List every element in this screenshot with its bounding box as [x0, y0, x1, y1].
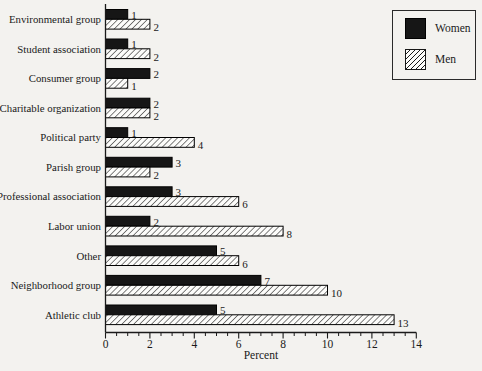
category-label-political-party: Political party — [40, 131, 101, 143]
legend-item-women: Women — [405, 18, 475, 39]
bar-men-consumer-group — [106, 78, 128, 88]
bar-women-parish-group — [106, 157, 173, 167]
value-label-men-charitable-organization: 2 — [153, 110, 159, 122]
value-label-men-parish-group: 2 — [153, 169, 159, 181]
category-label-athletic-club: Athletic club — [45, 309, 101, 321]
bar-men-athletic-club — [106, 315, 395, 325]
x-axis-tick-label: 2 — [147, 338, 153, 350]
value-label-men-athletic-club: 13 — [398, 317, 410, 329]
x-axis-title: Percent — [244, 349, 279, 361]
category-label-parish-group: Parish group — [46, 161, 101, 173]
bar-men-labor-union — [106, 226, 284, 236]
bar-women-athletic-club — [106, 305, 217, 315]
x-axis-tick-label: 8 — [280, 338, 286, 350]
category-label-professional-association: Professional association — [0, 190, 102, 202]
value-label-men-other: 6 — [242, 258, 248, 270]
x-axis-tick-label: 6 — [236, 338, 242, 350]
value-label-men-labor-union: 8 — [287, 228, 293, 240]
bar-women-environmental-group — [106, 10, 128, 20]
value-label-men-consumer-group: 1 — [131, 80, 137, 92]
bar-men-charitable-organization — [106, 108, 150, 118]
category-label-consumer-group: Consumer group — [29, 72, 101, 84]
x-axis-tick-label: 4 — [191, 338, 197, 350]
bar-men-neighborhood-group — [106, 285, 328, 295]
value-label-women-professional-association: 3 — [176, 186, 182, 198]
bar-men-political-party — [106, 138, 195, 148]
legend-item-men: Men — [405, 49, 475, 70]
category-label-neighborhood-group: Neighborhood group — [11, 279, 101, 291]
category-label-student-association: Student association — [17, 43, 101, 55]
category-label-charitable-organization: Charitable organization — [0, 102, 102, 114]
bar-women-consumer-group — [106, 69, 150, 79]
bar-women-other — [106, 246, 217, 256]
value-label-women-other: 5 — [220, 245, 226, 257]
value-label-women-environmental-group: 1 — [131, 9, 137, 21]
bar-women-charitable-organization — [106, 98, 150, 108]
value-label-women-neighborhood-group: 7 — [264, 275, 270, 287]
legend-label-men: Men — [435, 54, 456, 66]
category-label-environmental-group: Environmental group — [9, 13, 101, 25]
value-label-men-professional-association: 6 — [242, 198, 248, 210]
bar-women-political-party — [106, 128, 128, 138]
x-axis-tick-label: 10 — [322, 338, 334, 350]
bar-men-student-association — [106, 49, 150, 59]
value-label-women-student-association: 1 — [131, 38, 137, 50]
bar-men-environmental-group — [106, 19, 150, 29]
women-solid-swatch-icon — [405, 18, 426, 39]
bar-men-parish-group — [106, 167, 150, 177]
category-label-other: Other — [76, 250, 101, 262]
value-label-women-political-party: 1 — [131, 127, 137, 139]
bar-women-labor-union — [106, 216, 150, 226]
x-axis-tick-label: 0 — [103, 338, 109, 350]
bar-women-student-association — [106, 39, 128, 49]
value-label-men-neighborhood-group: 10 — [331, 287, 343, 299]
bar-chart-figure: 12Environmental group12Student associati… — [0, 0, 482, 371]
value-label-women-parish-group: 3 — [176, 157, 182, 169]
value-label-men-environmental-group: 2 — [153, 21, 159, 33]
category-label-labor-union: Labor union — [48, 220, 102, 232]
men-hatched-swatch-icon — [405, 49, 426, 70]
value-label-men-student-association: 2 — [153, 51, 159, 63]
legend: Women Men — [392, 10, 476, 80]
x-axis-tick-label: 14 — [411, 338, 423, 350]
bar-women-neighborhood-group — [106, 275, 261, 285]
value-label-women-athletic-club: 5 — [220, 304, 226, 316]
value-label-women-consumer-group: 2 — [153, 68, 159, 80]
bar-men-professional-association — [106, 197, 239, 207]
bar-women-professional-association — [106, 187, 173, 197]
legend-label-women: Women — [435, 23, 470, 35]
value-label-women-charitable-organization: 2 — [153, 98, 159, 110]
value-label-men-political-party: 4 — [198, 139, 204, 151]
x-axis-tick-label: 12 — [366, 338, 378, 350]
value-label-women-labor-union: 2 — [153, 216, 159, 228]
bar-men-other — [106, 256, 239, 266]
